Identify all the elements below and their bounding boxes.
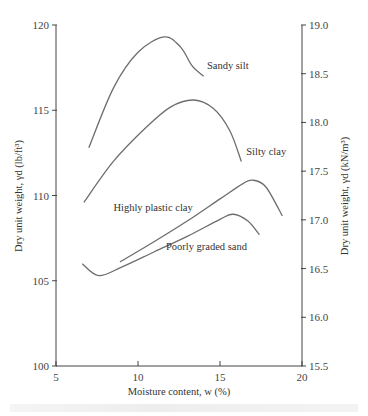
y-tick-label-right: 16.0 — [309, 311, 329, 323]
y-tick-label-left: 110 — [33, 190, 50, 202]
plot-frame — [56, 25, 302, 366]
curve-silty-clay — [84, 100, 241, 202]
y-tick-label-left: 115 — [33, 104, 50, 116]
y-tick-label-left: 100 — [33, 360, 50, 372]
x-axis-title: Moisture content, w (%) — [128, 386, 231, 398]
y-tick-label-right: 18.0 — [309, 116, 329, 128]
y-axis-title-left: Dry unit weight, γd (lb/ft³) — [13, 140, 25, 252]
y-tick-label-right: 16.5 — [309, 263, 329, 275]
figure-caption-blurred — [10, 404, 358, 412]
y-tick-label-right: 19.0 — [309, 19, 329, 31]
y-tick-label-left: 105 — [33, 275, 50, 287]
y-tick-label-right: 17.5 — [309, 165, 329, 177]
label-sandy-silt: Sandy silt — [207, 60, 249, 71]
compaction-chart: 510152010010511011512015.516.016.517.017… — [0, 0, 368, 416]
y-tick-label-left: 120 — [33, 19, 50, 31]
label-highly-plastic-clay: Highly plastic clay — [113, 202, 193, 213]
x-tick-label: 5 — [53, 371, 59, 383]
y-tick-label-right: 17.0 — [309, 214, 329, 226]
curve-labels: Sandy siltSilty clayHighly plastic clayP… — [113, 60, 287, 252]
y-tick-label-right: 18.5 — [309, 68, 329, 80]
x-tick-label: 10 — [133, 371, 145, 383]
label-poorly-graded-sand: Poorly graded sand — [166, 241, 248, 252]
curve-sandy-silt — [89, 37, 204, 148]
y-tick-label-right: 15.5 — [309, 360, 329, 372]
label-silty-clay: Silty clay — [246, 146, 287, 157]
y-axis-title-right: Dry unit weight, γd (kN/m³) — [339, 136, 351, 255]
x-tick-label: 15 — [215, 371, 227, 383]
x-tick-label: 20 — [297, 371, 309, 383]
